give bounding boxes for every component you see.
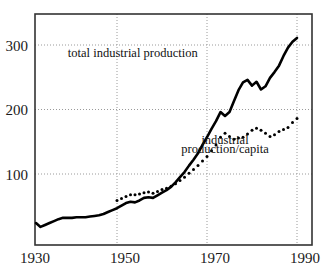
y-tick-label-100: 100	[6, 167, 29, 183]
x-tick-label-1990: 1990	[290, 250, 320, 266]
y-tick-label-200: 200	[6, 102, 29, 118]
x-tick-label-1930: 1930	[20, 250, 50, 266]
industrial-production-line-chart: 1002003001930195019701990 total industri…	[0, 0, 331, 271]
chart-background	[0, 0, 331, 271]
chart-container: 1002003001930195019701990 total industri…	[0, 0, 331, 271]
industrial-production-per-capita-label-line2: production/capita	[181, 142, 269, 156]
total-industrial-production-label: total industrial production	[68, 46, 199, 60]
x-tick-label-1970: 1970	[200, 250, 230, 266]
x-tick-label-1950: 1950	[110, 250, 140, 266]
y-tick-label-300: 300	[6, 38, 29, 54]
